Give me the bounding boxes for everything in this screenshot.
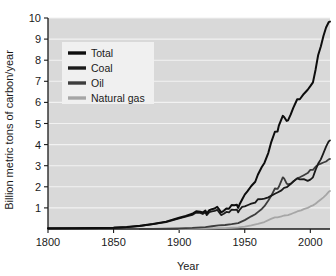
svg-text:1: 1 bbox=[35, 202, 41, 214]
svg-text:1900: 1900 bbox=[167, 236, 191, 248]
x-axis-title: Year bbox=[177, 260, 200, 272]
svg-text:10: 10 bbox=[29, 12, 41, 24]
svg-text:2000: 2000 bbox=[298, 236, 322, 248]
svg-text:9: 9 bbox=[35, 33, 41, 45]
emissions-line-chart: 12345678910 18001850190019502000 TotalCo… bbox=[0, 0, 336, 276]
svg-text:1800: 1800 bbox=[36, 236, 60, 248]
svg-text:7: 7 bbox=[35, 75, 41, 87]
svg-text:4: 4 bbox=[35, 139, 41, 151]
svg-text:3: 3 bbox=[35, 160, 41, 172]
chart-legend: TotalCoalOilNatural gas bbox=[62, 42, 154, 104]
legend-label-oil: Oil bbox=[91, 77, 104, 89]
legend-label-coal: Coal bbox=[91, 62, 113, 74]
chart-container: 12345678910 18001850190019502000 TotalCo… bbox=[0, 0, 336, 276]
legend-label-total: Total bbox=[91, 47, 113, 59]
svg-text:1850: 1850 bbox=[101, 236, 125, 248]
svg-text:8: 8 bbox=[35, 54, 41, 66]
y-axis-title: Billion metric tons of carbon/year bbox=[3, 50, 15, 210]
svg-text:2: 2 bbox=[35, 181, 41, 193]
svg-text:6: 6 bbox=[35, 96, 41, 108]
svg-text:1950: 1950 bbox=[233, 236, 257, 248]
svg-text:5: 5 bbox=[35, 118, 41, 130]
legend-label-natural-gas: Natural gas bbox=[91, 92, 145, 104]
